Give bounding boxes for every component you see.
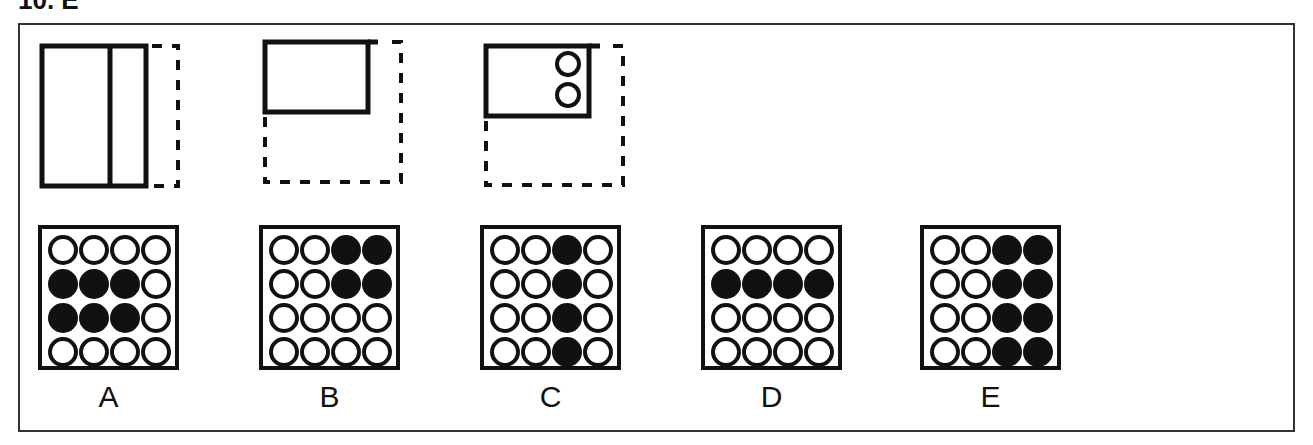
empty-hole-icon — [269, 337, 299, 367]
empty-hole-icon — [773, 337, 803, 367]
empty-hole-icon — [79, 235, 109, 265]
option-c-box[interactable] — [480, 225, 621, 370]
option-b-grid — [269, 234, 393, 370]
filled-hole-icon — [362, 235, 392, 265]
option-a-grid — [48, 234, 172, 370]
empty-hole-icon — [300, 303, 330, 333]
empty-hole-icon — [490, 303, 520, 333]
empty-hole-icon — [742, 235, 772, 265]
empty-hole-icon — [269, 303, 299, 333]
filled-hole-icon — [110, 269, 140, 299]
filled-hole-icon — [331, 269, 361, 299]
filled-hole-icon — [992, 269, 1022, 299]
filled-hole-icon — [79, 269, 109, 299]
empty-hole-icon — [110, 337, 140, 367]
empty-hole-icon — [269, 269, 299, 299]
empty-hole-icon — [583, 337, 613, 367]
empty-hole-icon — [711, 303, 741, 333]
filled-hole-icon — [1023, 337, 1053, 367]
filled-hole-icon — [992, 235, 1022, 265]
option-c-label: C — [480, 380, 621, 414]
empty-hole-icon — [804, 337, 834, 367]
filled-hole-icon — [1023, 235, 1053, 265]
option-c-grid — [490, 234, 614, 370]
empty-hole-icon — [961, 337, 991, 367]
fold-step-2 — [265, 42, 401, 182]
filled-hole-icon — [804, 269, 834, 299]
filled-hole-icon — [552, 269, 582, 299]
empty-hole-icon — [742, 303, 772, 333]
filled-hole-icon — [773, 269, 803, 299]
option-b-label: B — [259, 380, 400, 414]
filled-hole-icon — [331, 235, 361, 265]
empty-hole-icon — [930, 303, 960, 333]
empty-hole-icon — [773, 303, 803, 333]
empty-hole-icon — [141, 235, 171, 265]
empty-hole-icon — [300, 337, 330, 367]
filled-hole-icon — [742, 269, 772, 299]
empty-hole-icon — [300, 269, 330, 299]
option-b-box[interactable] — [259, 225, 400, 370]
empty-hole-icon — [490, 269, 520, 299]
empty-hole-icon — [930, 235, 960, 265]
option-a-box[interactable] — [38, 225, 179, 370]
punched-hole-icon — [557, 53, 579, 75]
empty-hole-icon — [742, 337, 772, 367]
filled-hole-icon — [362, 269, 392, 299]
option-d-label: D — [701, 380, 842, 414]
fold-step-3 — [486, 46, 623, 185]
empty-hole-icon — [930, 269, 960, 299]
empty-hole-icon — [961, 269, 991, 299]
filled-hole-icon — [992, 337, 1022, 367]
empty-hole-icon — [79, 337, 109, 367]
option-e-grid — [930, 234, 1054, 370]
option-a-label: A — [38, 380, 179, 414]
empty-hole-icon — [141, 269, 171, 299]
filled-hole-icon — [552, 303, 582, 333]
fold-step-1 — [42, 46, 178, 186]
option-d-grid — [711, 234, 835, 370]
filled-hole-icon — [1023, 269, 1053, 299]
empty-hole-icon — [773, 235, 803, 265]
empty-hole-icon — [521, 337, 551, 367]
empty-hole-icon — [961, 235, 991, 265]
empty-hole-icon — [141, 337, 171, 367]
empty-hole-icon — [141, 303, 171, 333]
filled-hole-icon — [552, 337, 582, 367]
empty-hole-icon — [711, 337, 741, 367]
filled-hole-icon — [992, 303, 1022, 333]
option-e-box[interactable] — [920, 225, 1061, 370]
empty-hole-icon — [300, 235, 330, 265]
empty-hole-icon — [331, 303, 361, 333]
filled-hole-icon — [552, 235, 582, 265]
empty-hole-icon — [362, 303, 392, 333]
filled-hole-icon — [711, 269, 741, 299]
empty-hole-icon — [48, 337, 78, 367]
empty-hole-icon — [269, 235, 299, 265]
empty-hole-icon — [521, 235, 551, 265]
empty-hole-icon — [961, 303, 991, 333]
empty-hole-icon — [521, 303, 551, 333]
empty-hole-icon — [583, 235, 613, 265]
filled-hole-icon — [48, 303, 78, 333]
empty-hole-icon — [711, 235, 741, 265]
empty-hole-icon — [521, 269, 551, 299]
filled-hole-icon — [79, 303, 109, 333]
empty-hole-icon — [930, 337, 960, 367]
empty-hole-icon — [362, 337, 392, 367]
empty-hole-icon — [48, 235, 78, 265]
empty-hole-icon — [804, 303, 834, 333]
punched-hole-icon — [557, 84, 579, 106]
empty-hole-icon — [490, 235, 520, 265]
empty-hole-icon — [583, 269, 613, 299]
filled-hole-icon — [48, 269, 78, 299]
empty-hole-icon — [804, 235, 834, 265]
option-d-box[interactable] — [701, 225, 842, 370]
empty-hole-icon — [490, 337, 520, 367]
empty-hole-icon — [110, 235, 140, 265]
option-e-label: E — [920, 380, 1061, 414]
folding-diagrams — [0, 0, 1313, 445]
empty-hole-icon — [583, 303, 613, 333]
filled-hole-icon — [110, 303, 140, 333]
filled-hole-icon — [1023, 303, 1053, 333]
